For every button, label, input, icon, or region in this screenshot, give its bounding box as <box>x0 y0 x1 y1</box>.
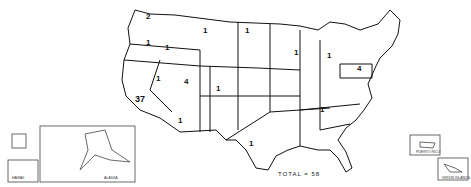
alaska-label: ALASKA <box>104 176 118 180</box>
virgin-islands-label: VIRGIN ISLANDS <box>442 176 470 180</box>
count-tn: 1 <box>320 105 324 114</box>
count-nd: 1 <box>245 26 249 35</box>
count-wa: 2 <box>146 12 150 21</box>
count-az: 1 <box>178 116 182 125</box>
count-mi: 1 <box>327 51 331 60</box>
count-tx: 1 <box>249 139 253 148</box>
count-co: 1 <box>216 84 220 93</box>
count-nv: 1 <box>156 74 160 83</box>
total-label: TOTAL = 58 <box>278 171 320 177</box>
count-id: 1 <box>165 43 169 52</box>
count-mt: 1 <box>203 26 207 35</box>
count-pa: 4 <box>357 64 361 73</box>
us-map: 2 1 1 1 1 37 1 4 1 1 1 1 1 4 1 TOTAL = 5… <box>0 0 471 187</box>
map-outline <box>0 0 471 187</box>
count-ca: 37 <box>135 94 145 104</box>
count-or: 1 <box>146 38 150 47</box>
hawaii-label: HAWAII <box>12 176 24 180</box>
count-ut: 4 <box>184 77 188 86</box>
count-wi: 1 <box>294 48 298 57</box>
puerto-rico-label: PUERTO RICO <box>416 150 440 154</box>
